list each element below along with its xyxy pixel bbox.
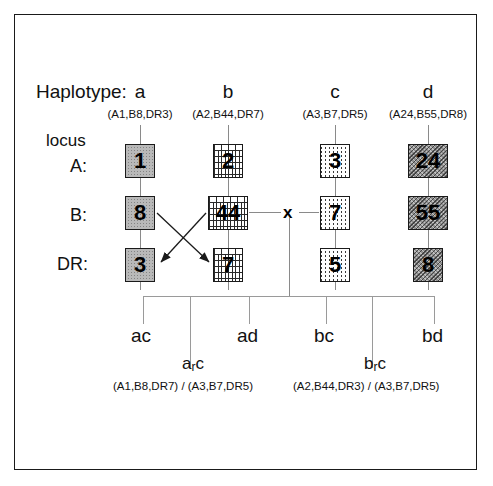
allele-box-b-A[interactable]: 2	[213, 144, 243, 178]
allele-value-b-DR: 7	[222, 254, 234, 276]
offspring-label-ad: ad	[237, 325, 258, 347]
column-alleles-b: (A2,B44,DR7)	[173, 108, 283, 120]
offspring-branch-bc	[326, 296, 327, 324]
allele-box-d-B[interactable]: 55	[408, 196, 448, 230]
column-letter-c: c	[315, 81, 355, 103]
allele-box-d-A[interactable]: 24	[408, 144, 448, 178]
allele-box-c-B[interactable]: 7	[320, 196, 350, 230]
allele-box-c-DR[interactable]: 5	[320, 248, 350, 282]
recombinant-label-brc: brc	[364, 354, 386, 374]
allele-value-c-DR: 5	[329, 254, 341, 276]
mating-descender-line	[289, 218, 291, 296]
allele-box-a-A[interactable]: 1	[125, 144, 155, 178]
recombinant-genotype-arc: (A1,B8,DR7) / (A3,B7,DR5)	[113, 380, 253, 392]
mating-line-right	[299, 212, 319, 213]
recombinant-arc-tail: c	[195, 354, 204, 373]
offspring-label-bd: bd	[422, 325, 443, 347]
recombinant-brc-tail: c	[377, 354, 386, 373]
allele-value-a-B: 8	[134, 202, 146, 224]
recombination-arrow-b-to-a	[161, 213, 206, 262]
offspring-branch-ac	[143, 296, 144, 324]
allele-box-a-DR[interactable]: 3	[125, 248, 155, 282]
column-alleles-d: (A24,B55,DR8)	[373, 108, 483, 120]
allele-value-d-A: 24	[416, 150, 440, 172]
locus-label-DR: DR:	[57, 254, 88, 275]
allele-value-c-B: 7	[329, 202, 341, 224]
column-letter-d: d	[408, 81, 448, 103]
locus-label-B: B:	[70, 205, 87, 226]
offspring-label-ac: ac	[131, 325, 151, 347]
locus-word: locus	[46, 131, 86, 151]
allele-value-c-A: 3	[329, 150, 341, 172]
allele-box-b-B[interactable]: 44	[208, 196, 248, 230]
allele-value-b-B: 44	[216, 202, 240, 224]
recombination-arrow-a-to-b	[157, 213, 209, 262]
offspring-branch-bd	[434, 296, 435, 324]
recombinant-arc-sub: r	[191, 360, 195, 374]
offspring-tree-bar	[143, 296, 435, 297]
allele-value-b-A: 2	[222, 150, 234, 172]
haplotype-title-label: Haplotype:	[36, 81, 127, 103]
recombinant-genotype-brc: (A2,B44,DR3) / (A3,B7,DR5)	[293, 380, 439, 392]
allele-value-d-B: 55	[416, 202, 440, 224]
allele-box-d-DR[interactable]: 8	[413, 248, 443, 282]
recombinant-brc-sub: r	[373, 360, 377, 374]
allele-box-a-B[interactable]: 8	[125, 196, 155, 230]
locus-label-A: A:	[70, 156, 87, 177]
allele-box-c-A[interactable]: 3	[320, 144, 350, 178]
offspring-branch-ad	[249, 296, 250, 324]
haplotype-diagram: Haplotype: a b c d (A1,B8,DR3) (A2,B44,D…	[0, 0, 493, 486]
mating-line-left	[249, 212, 281, 213]
column-letter-b: b	[208, 81, 248, 103]
allele-value-a-A: 1	[134, 150, 146, 172]
allele-value-a-DR: 3	[134, 254, 146, 276]
allele-box-b-DR[interactable]: 7	[213, 248, 243, 282]
offspring-label-bc: bc	[314, 325, 334, 347]
column-letter-a: a	[120, 81, 160, 103]
allele-value-d-DR: 8	[422, 254, 434, 276]
recombinant-label-arc: arc	[182, 354, 204, 374]
crossover-arrows	[0, 0, 493, 486]
